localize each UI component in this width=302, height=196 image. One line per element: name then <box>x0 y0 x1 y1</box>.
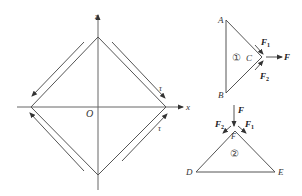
x-axis-label: x <box>185 102 190 112</box>
f-label-c: F <box>283 52 290 62</box>
shear-arrow-lower-right <box>122 114 167 161</box>
shear-arrow-upper-right <box>112 42 165 98</box>
triangle-2-id: ② <box>230 148 239 159</box>
vertex-c-label: C <box>246 53 253 63</box>
triangle-2-diagram: D E F ② F F2 F1 <box>185 105 284 177</box>
vertex-f-label: F <box>230 132 236 141</box>
f2-arrow-f <box>223 126 231 133</box>
triangle-1-diagram: A B C ① F1 F2 F <box>217 15 290 100</box>
f2-label-f: F2 <box>214 119 224 130</box>
vertex-b-label: B <box>218 90 224 100</box>
vertex-d-label: D <box>185 167 193 177</box>
shear-arrow-upper-left <box>32 42 84 96</box>
f1-label-c: F1 <box>260 37 270 48</box>
triangle-1-id: ① <box>232 52 241 63</box>
shear-label-upper: τ <box>159 84 163 93</box>
shear-arrow-lower-left <box>30 113 84 171</box>
shear-label-lower: τ <box>158 124 162 133</box>
left-diagram: z x O τ τ <box>17 12 190 190</box>
f1-label-f: F1 <box>244 119 254 130</box>
f2-label-c: F2 <box>259 71 269 82</box>
f-label-f: F <box>237 105 244 115</box>
diagram-canvas: z x O τ τ A B C ① F1 F2 F D E F ② F F2 <box>0 0 302 196</box>
origin-label: O <box>86 108 93 119</box>
vertex-e-label: E <box>277 167 284 177</box>
vertex-a-label: A <box>217 15 224 25</box>
